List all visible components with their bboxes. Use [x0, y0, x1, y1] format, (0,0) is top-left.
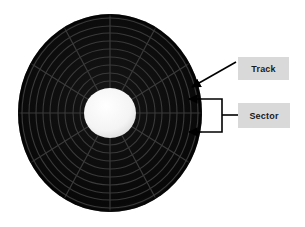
disk-platter	[18, 14, 202, 212]
track-label-text: Track	[251, 64, 276, 74]
track-label-box: Track	[238, 57, 289, 80]
sector-label-box: Sector	[238, 103, 290, 128]
spindle-hub	[84, 88, 136, 138]
sector-label-text: Sector	[249, 111, 278, 121]
